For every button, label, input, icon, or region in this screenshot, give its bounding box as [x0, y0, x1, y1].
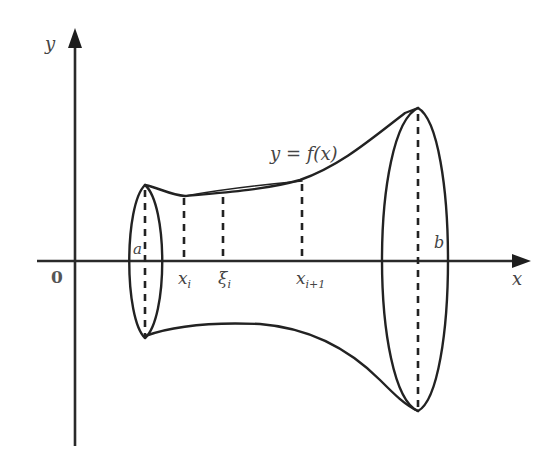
label-x-i-plus-1: xi+1: [296, 268, 325, 291]
label-x-i1-main: x: [296, 268, 306, 288]
y-axis-label: y: [44, 33, 56, 54]
origin-label: 0: [51, 267, 63, 287]
lower-curve-mirror: [145, 323, 418, 411]
curve-label-text: y = f(x): [269, 143, 338, 164]
label-xi-i: ξi: [218, 268, 231, 291]
label-x-i1-sub: i+1: [306, 278, 326, 291]
slice-chord: [185, 181, 302, 196]
right-ellipse-back: [382, 108, 418, 411]
endpoint-b-label: b: [434, 233, 444, 252]
label-xi-i-sub: i: [227, 278, 231, 291]
label-x-i: xi: [178, 268, 191, 291]
x-axis: x: [37, 254, 531, 289]
y-axis: y: [44, 28, 82, 446]
solid-of-revolution-diagram: y x 0 a b y = f(x) xi ξi: [0, 0, 558, 468]
svg-text:y = f(x): y = f(x): [269, 143, 338, 164]
curve-label: y = f(x): [269, 143, 338, 164]
right-cross-section: b: [382, 108, 448, 411]
label-x-i-main: x: [178, 268, 188, 288]
endpoint-a-label: a: [133, 240, 142, 258]
label-x-i-sub: i: [188, 278, 192, 291]
y-axis-arrow-icon: [68, 28, 82, 48]
right-ellipse-front: [418, 108, 448, 411]
x-axis-label: x: [512, 268, 522, 289]
x-axis-arrow-icon: [512, 254, 531, 268]
